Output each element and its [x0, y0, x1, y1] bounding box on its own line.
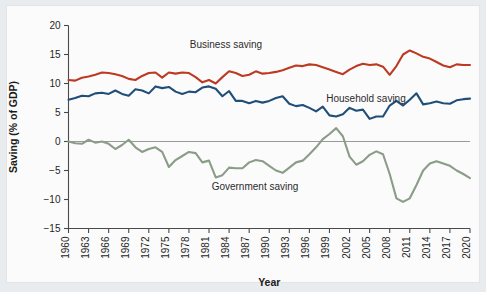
- axes-group: [64, 26, 470, 234]
- series-lines-group: [69, 50, 471, 201]
- x-axis-title: Year: [258, 276, 280, 288]
- tick-labels-group: −15−10−505101520196019631966196919721975…: [44, 20, 472, 259]
- x-tick-label: 2005: [361, 236, 372, 259]
- y-tick-label: 10: [49, 78, 61, 89]
- x-tick-label: 1993: [280, 236, 291, 259]
- x-tick-label: 2011: [401, 236, 412, 258]
- y-tick-label: 5: [55, 107, 61, 118]
- x-tick-label: 1960: [60, 236, 71, 259]
- x-tick-label: 1966: [100, 236, 111, 259]
- y-tick-label: −15: [44, 223, 61, 234]
- line-chart: −15−10−505101520196019631966196919721975…: [0, 0, 486, 292]
- y-tick-label: −10: [44, 194, 61, 205]
- y-tick-label: 0: [55, 136, 61, 147]
- x-tick-label: 2008: [381, 236, 392, 259]
- x-tick-label: 2020: [461, 236, 472, 259]
- series-annotation-household-saving: Household saving: [326, 93, 406, 104]
- y-axis-title: Saving (% of GDP): [7, 81, 19, 173]
- series-annotations-group: Business savingHousehold savingGovernmen…: [190, 39, 406, 192]
- x-tick-label: 1996: [300, 236, 311, 259]
- series-annotation-business-saving: Business saving: [190, 39, 262, 50]
- series-annotation-government-saving: Government saving: [212, 181, 299, 192]
- x-tick-label: 1972: [140, 236, 151, 259]
- x-tick-label: 1990: [260, 236, 271, 259]
- y-tick-label: 20: [49, 20, 61, 31]
- x-tick-label: 2014: [421, 236, 432, 259]
- x-tick-label: 1981: [200, 236, 211, 259]
- x-tick-label: 1963: [80, 236, 91, 259]
- x-tick-label: 2002: [341, 236, 352, 259]
- y-tick-label: 15: [49, 49, 61, 60]
- x-tick-label: 1969: [120, 236, 131, 259]
- x-tick-label: 1987: [240, 236, 251, 259]
- y-tick-label: −5: [49, 165, 61, 176]
- series-line-household-saving: [69, 86, 471, 118]
- series-line-business-saving: [69, 50, 471, 83]
- x-tick-label: 1984: [220, 236, 231, 259]
- x-tick-label: 1999: [320, 236, 331, 259]
- x-tick-label: 2017: [441, 236, 452, 259]
- x-tick-label: 1975: [160, 236, 171, 259]
- chart-figure: −15−10−505101520196019631966196919721975…: [0, 0, 486, 292]
- x-tick-label: 1978: [180, 236, 191, 259]
